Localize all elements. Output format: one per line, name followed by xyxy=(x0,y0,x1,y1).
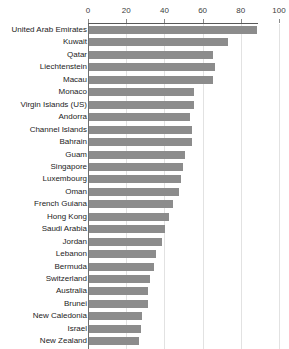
chart-row: Saudi Arabia xyxy=(0,223,289,235)
category-label: Andorra xyxy=(59,112,87,122)
category-label: Jordan xyxy=(63,237,87,247)
bar xyxy=(89,300,148,308)
chart-row: Israel xyxy=(0,323,289,335)
chart-row: Guam xyxy=(0,149,289,161)
bar xyxy=(89,225,165,233)
x-tick-label-40: 40 xyxy=(160,6,169,16)
bar xyxy=(89,88,194,96)
category-label: Guam xyxy=(65,150,87,160)
bar xyxy=(89,325,141,333)
chart-row: Monaco xyxy=(0,86,289,98)
bar xyxy=(89,337,139,345)
x-tick-label-20: 20 xyxy=(122,6,131,16)
x-tick-label-80: 80 xyxy=(236,6,245,16)
bar xyxy=(89,213,169,221)
chart-row: Bermuda xyxy=(0,261,289,273)
x-tick-0 xyxy=(88,19,89,23)
chart-row: Bahrain xyxy=(0,136,289,148)
x-tick-80 xyxy=(241,19,242,23)
bar xyxy=(89,238,162,246)
chart-row: Kuwait xyxy=(0,36,289,48)
chart-row: Oman xyxy=(0,186,289,198)
bar xyxy=(89,51,213,59)
x-tick-label-60: 60 xyxy=(198,6,207,16)
chart-row: French Guiana xyxy=(0,198,289,210)
chart-row: Channel Islands xyxy=(0,124,289,136)
x-tick-20 xyxy=(126,19,127,23)
chart-row: Singapore xyxy=(0,161,289,173)
category-label: Switzerland xyxy=(46,274,87,284)
chart-row: Macau xyxy=(0,74,289,86)
category-label: Luxembourg xyxy=(43,174,87,184)
bar xyxy=(89,287,148,295)
category-label: Virgin Islands (US) xyxy=(20,100,87,110)
bar xyxy=(89,138,192,146)
chart-row: New Caledonia xyxy=(0,310,289,322)
category-label: Brunei xyxy=(64,299,87,309)
bar xyxy=(89,163,183,171)
bar xyxy=(89,113,190,121)
chart-row: Jordan xyxy=(0,236,289,248)
bar xyxy=(89,188,179,196)
category-label: Oman xyxy=(65,187,87,197)
x-tick-60 xyxy=(203,19,204,23)
x-tick-label-0: 0 xyxy=(86,6,90,16)
x-tick-label-100: 100 xyxy=(272,6,285,16)
chart-row: Liechtenstein xyxy=(0,61,289,73)
x-tick-100 xyxy=(279,19,280,23)
bar xyxy=(89,275,150,283)
chart-row: United Arab Emirates xyxy=(0,24,289,36)
category-label: New Caledonia xyxy=(33,311,87,321)
bar xyxy=(89,76,213,84)
category-label: New Zealand xyxy=(40,336,87,346)
chart-row: Switzerland xyxy=(0,273,289,285)
chart-row: Andorra xyxy=(0,111,289,123)
category-label: Singapore xyxy=(51,162,87,172)
category-label: Australia xyxy=(56,286,87,296)
category-label: Liechtenstein xyxy=(40,62,87,72)
bar xyxy=(89,126,192,134)
bar xyxy=(89,26,257,34)
bar xyxy=(89,250,156,258)
category-label: Monaco xyxy=(59,87,87,97)
horizontal-bar-chart: 020406080100United Arab EmiratesKuwaitQa… xyxy=(0,0,289,349)
chart-row: Lebanon xyxy=(0,248,289,260)
chart-row: Luxembourg xyxy=(0,173,289,185)
category-label: Macau xyxy=(63,75,87,85)
category-label: Bahrain xyxy=(59,137,87,147)
chart-row: Virgin Islands (US) xyxy=(0,99,289,111)
category-label: Channel Islands xyxy=(30,125,87,135)
category-label: Hong Kong xyxy=(47,212,87,222)
category-label: Israel xyxy=(67,324,87,334)
chart-row: Australia xyxy=(0,285,289,297)
chart-row: Brunei xyxy=(0,298,289,310)
category-label: Bermuda xyxy=(55,262,87,272)
bar xyxy=(89,263,154,271)
chart-row: Hong Kong xyxy=(0,211,289,223)
category-label: Kuwait xyxy=(63,37,87,47)
bar xyxy=(89,151,185,159)
chart-row: Qatar xyxy=(0,49,289,61)
x-tick-40 xyxy=(164,19,165,23)
bar xyxy=(89,63,215,71)
category-label: French Guiana xyxy=(34,199,87,209)
category-label: Saudi Arabia xyxy=(42,224,87,234)
bar xyxy=(89,200,173,208)
bar xyxy=(89,101,194,109)
chart-row: New Zealand xyxy=(0,335,289,347)
category-label: Qatar xyxy=(67,50,87,60)
category-label: United Arab Emirates xyxy=(11,25,87,35)
bar xyxy=(89,175,181,183)
bar xyxy=(89,312,142,320)
category-label: Lebanon xyxy=(56,249,87,259)
bar xyxy=(89,38,228,46)
